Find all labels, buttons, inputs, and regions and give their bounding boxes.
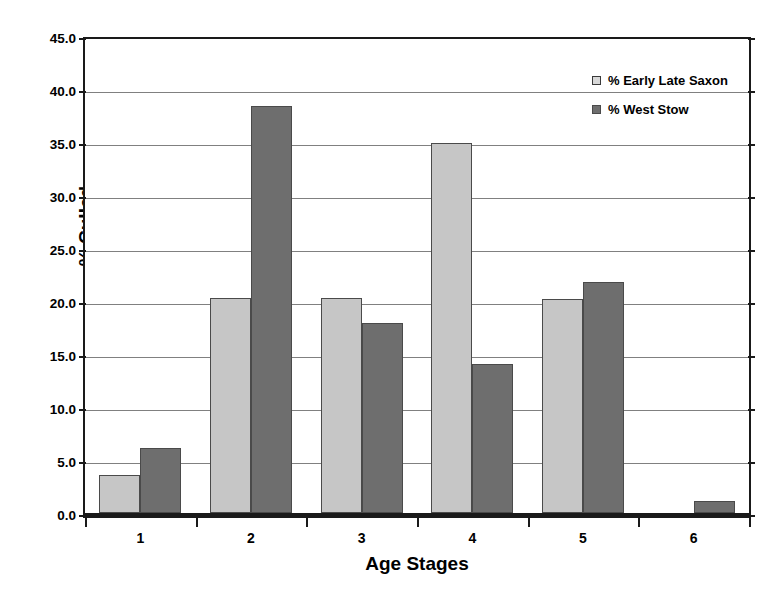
y-tick-label: 5.0 (28, 456, 76, 470)
bar (210, 298, 251, 513)
bar (251, 106, 292, 513)
bar (472, 364, 513, 513)
y-tick-mark (748, 409, 755, 411)
x-tick-mark (417, 518, 419, 527)
legend-item: % Early Late Saxon (592, 74, 752, 87)
y-tick-mark (748, 356, 755, 358)
x-tick-mark (196, 518, 198, 527)
x-axis-tick-labels: 123456 (83, 530, 751, 554)
bar (542, 299, 583, 513)
bar (694, 501, 735, 513)
bar (99, 475, 140, 513)
legend-label: % West Stow (608, 103, 689, 116)
y-axis-tick-labels: 0.05.010.015.020.025.030.035.040.045.0 (20, 0, 76, 595)
x-tick-label: 5 (553, 530, 613, 546)
y-tick-mark (79, 462, 86, 464)
y-tick-label: 45.0 (28, 32, 76, 46)
y-tick-mark (748, 250, 755, 252)
y-tick-mark (79, 356, 86, 358)
x-axis-baseline (85, 513, 749, 516)
x-tick-label: 2 (221, 530, 281, 546)
y-tick-label: 15.0 (28, 350, 76, 364)
y-tick-mark (79, 303, 86, 305)
y-tick-label: 30.0 (28, 191, 76, 205)
gridline (85, 304, 749, 305)
y-tick-label: 0.0 (28, 509, 76, 523)
bar (321, 298, 362, 513)
y-tick-mark (79, 515, 86, 517)
y-tick-mark (748, 197, 755, 199)
gridline (85, 198, 749, 199)
x-tick-label: 4 (442, 530, 502, 546)
y-tick-mark (748, 462, 755, 464)
y-tick-mark (79, 250, 86, 252)
y-tick-mark (79, 144, 86, 146)
legend-swatch-icon (592, 105, 601, 114)
gridline (85, 410, 749, 411)
y-tick-label: 40.0 (28, 85, 76, 99)
x-tick-mark (638, 518, 640, 527)
x-tick-label: 1 (110, 530, 170, 546)
x-tick-label: 6 (664, 530, 724, 546)
bar (583, 282, 624, 513)
gridline (85, 145, 749, 146)
y-tick-label: 10.0 (28, 403, 76, 417)
gridline (85, 251, 749, 252)
y-tick-mark (79, 38, 86, 40)
y-tick-mark (79, 91, 86, 93)
x-tick-mark (85, 518, 87, 527)
legend-label: % Early Late Saxon (608, 74, 728, 87)
y-tick-mark (748, 515, 755, 517)
x-tick-mark (306, 518, 308, 527)
legend-swatch-icon (592, 76, 601, 85)
bar-chart: % Culled 0.05.010.015.020.025.030.035.04… (0, 0, 781, 595)
bar (362, 323, 403, 513)
chart-legend: % Early Late Saxon% West Stow (592, 74, 752, 132)
x-axis-tick-marks (83, 518, 751, 530)
y-tick-mark (748, 38, 755, 40)
y-tick-label: 25.0 (28, 244, 76, 258)
y-tick-mark (748, 303, 755, 305)
y-tick-label: 35.0 (28, 138, 76, 152)
y-tick-mark (748, 144, 755, 146)
gridline (85, 463, 749, 464)
gridline (85, 357, 749, 358)
legend-item: % West Stow (592, 103, 752, 116)
bar (140, 448, 181, 513)
x-tick-label: 3 (332, 530, 392, 546)
y-tick-label: 20.0 (28, 297, 76, 311)
x-tick-mark (749, 518, 751, 527)
x-tick-mark (528, 518, 530, 527)
y-tick-mark (79, 409, 86, 411)
y-tick-mark (79, 197, 86, 199)
x-axis-title: Age Stages (83, 553, 751, 575)
bar (431, 143, 472, 513)
